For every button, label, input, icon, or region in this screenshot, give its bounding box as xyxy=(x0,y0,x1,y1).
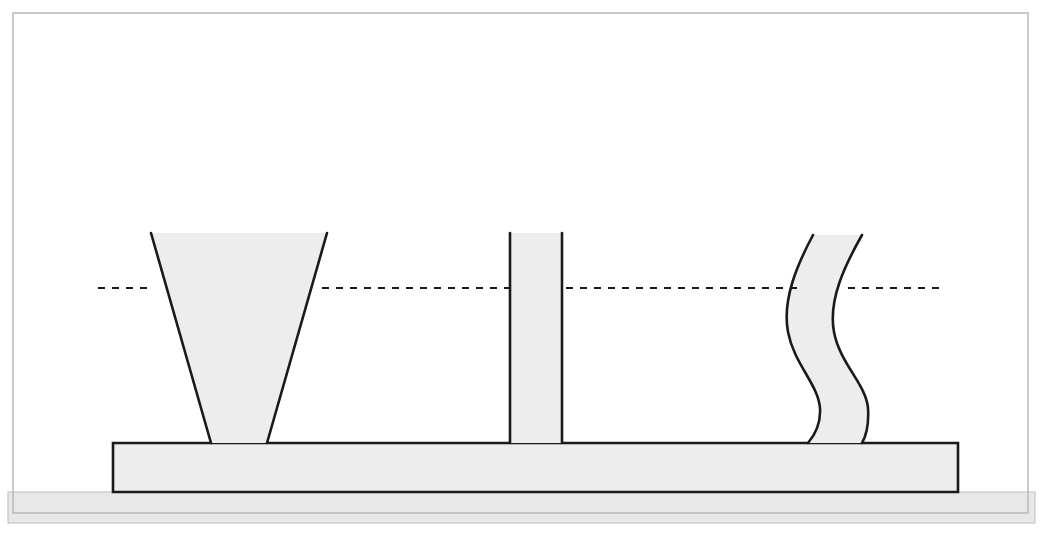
rib-cross-section-diagram xyxy=(0,0,1043,539)
figure-stage xyxy=(0,0,1043,539)
straight-vertical-rib-fill xyxy=(510,233,562,443)
ground-hatch-strip xyxy=(8,492,1035,523)
base-plate xyxy=(113,443,958,492)
